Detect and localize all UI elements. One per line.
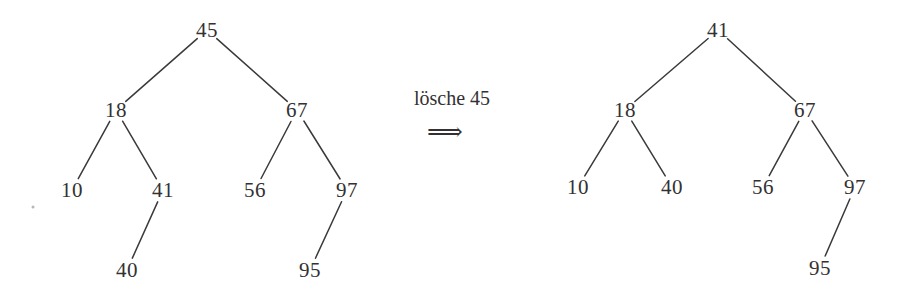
right-tree-node-95: 95: [809, 258, 831, 279]
right-tree-edge-R18-R10: [585, 121, 618, 176]
right-tree-node-56: 56: [752, 177, 774, 198]
left-tree-edge-L41-L40: [132, 202, 157, 258]
left-tree-node-45: 45: [196, 20, 218, 41]
right-tree-edge-R41-R18: [635, 38, 708, 101]
right-tree-edge-R18-R40: [632, 121, 665, 176]
right-tree-node-40: 40: [661, 177, 683, 198]
left-tree-edge-L67-L97: [304, 121, 340, 179]
right-tree-node-97: 97: [844, 177, 866, 198]
tree-edges-layer: [0, 0, 901, 296]
right-tree-edge-R67-R97: [812, 121, 848, 176]
right-tree-node-41: 41: [707, 20, 729, 41]
right-tree-node-67: 67: [794, 100, 816, 121]
left-tree-edges: [78, 39, 341, 259]
left-tree-edge-L97-L95: [315, 202, 341, 258]
left-tree-node-40: 40: [116, 260, 138, 281]
right-tree-edge-R41-R67: [728, 39, 796, 101]
right-tree-node-10: 10: [567, 177, 589, 198]
left-tree-edge-L67-L56: [261, 122, 291, 179]
right-tree-node-18: 18: [614, 100, 636, 121]
scan-artifact-speck: [32, 206, 35, 209]
left-tree-edge-L18-L41: [123, 121, 157, 179]
left-tree-node-41: 41: [152, 180, 174, 201]
left-tree-edge-L45-L67: [217, 39, 288, 102]
left-tree-node-10: 10: [61, 180, 83, 201]
right-tree-edge-R67-R56: [769, 121, 799, 175]
right-tree-edges: [585, 38, 850, 256]
bst-deletion-figure: 451867104156974095 4118671040569795 lösc…: [0, 0, 901, 296]
left-tree-node-56: 56: [244, 180, 266, 201]
left-tree-node-18: 18: [105, 100, 127, 121]
implies-arrow-icon: ⟹: [427, 119, 463, 144]
left-tree-edge-L18-L10: [78, 121, 109, 178]
left-tree-edge-L45-L18: [126, 39, 197, 102]
operation-label: lösche 45: [414, 88, 490, 108]
left-tree-node-95: 95: [299, 260, 321, 281]
left-tree-node-67: 67: [286, 100, 308, 121]
left-tree-node-97: 97: [336, 180, 358, 201]
right-tree-edge-R97-R95: [825, 199, 850, 256]
